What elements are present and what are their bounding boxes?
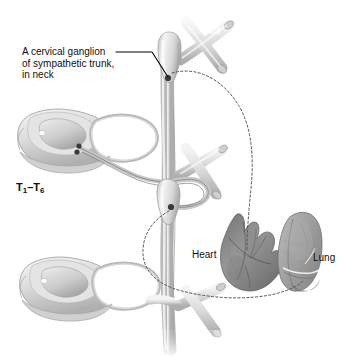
- label-segment-sub-1: 1: [23, 186, 27, 195]
- trunk-fade-bottom: [130, 330, 240, 359]
- label-heart: Heart: [192, 249, 216, 261]
- preganglionic-neuron-dot-2: [74, 149, 79, 154]
- label-lung: Lung: [313, 252, 335, 264]
- preganglionic-neuron-dot-1: [76, 143, 81, 148]
- label-segment-prefix-1: T: [16, 181, 23, 193]
- cervical-ganglion-dot: [165, 75, 171, 81]
- trunk-fade-top: [140, 0, 220, 34]
- central-canal-upper: [39, 130, 45, 135]
- label-cervical-ganglion: A cervical ganglion of sympathetic trunk…: [22, 46, 114, 81]
- central-canal-lower: [41, 278, 47, 283]
- label-cervical-ganglion-line1: A cervical ganglion: [22, 46, 105, 57]
- label-segment-sub-2: 6: [40, 186, 44, 195]
- thoracic-ganglion-dot: [168, 204, 174, 210]
- label-spinal-segments: T1–T6: [16, 182, 45, 195]
- label-cervical-ganglion-line3: in neck: [22, 69, 54, 80]
- label-cervical-ganglion-line2: of sympathetic trunk,: [22, 58, 114, 69]
